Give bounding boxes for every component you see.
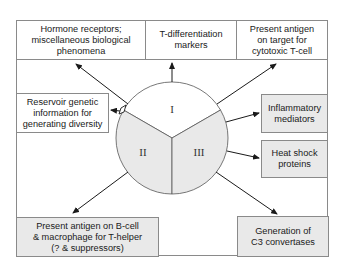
diagram-graphics: I II III	[0, 0, 345, 271]
arrow-inflammatory	[226, 113, 259, 122]
segment-I-label: I	[170, 103, 174, 115]
arrow-hormone	[76, 64, 128, 104]
arrow-c3	[216, 172, 277, 214]
segment-II-label: II	[139, 146, 147, 158]
arrow-bcell	[73, 172, 128, 213]
arrow-reservoir	[111, 110, 120, 111]
segment-III-label: III	[194, 146, 205, 158]
arrow-heatshock	[227, 151, 259, 158]
arrow-cytotoxic	[217, 64, 276, 104]
